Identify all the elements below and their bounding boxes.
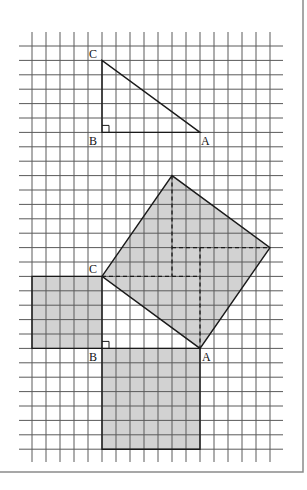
bottom-label-a: A xyxy=(202,350,211,364)
square-on-BC-fill xyxy=(32,276,102,348)
top-label-b: B xyxy=(89,134,97,148)
top-label-a: A xyxy=(201,134,210,148)
pythagoras-figure: C B A C B A xyxy=(0,0,307,490)
top-label-c: C xyxy=(89,47,97,61)
bottom-label-c: C xyxy=(89,262,97,276)
square-on-BA-fill xyxy=(102,348,200,449)
right-angle-marker xyxy=(102,125,109,132)
top-right-triangle xyxy=(102,60,200,132)
right-angle-marker xyxy=(102,341,109,348)
bottom-label-b: B xyxy=(89,350,97,364)
